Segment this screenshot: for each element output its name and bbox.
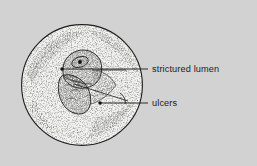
endoscopic-view-figure: strictured lumen ulcers bbox=[0, 0, 257, 166]
lumen-aperture bbox=[78, 60, 82, 64]
label-ulcers: ulcers bbox=[152, 98, 178, 108]
leader-dot-strictured-lumen bbox=[60, 67, 63, 70]
view-field-contents bbox=[22, 25, 142, 145]
leader-dot-ulcers bbox=[98, 101, 101, 104]
view-field bbox=[22, 25, 143, 146]
label-strictured-lumen: strictured lumen bbox=[152, 64, 219, 74]
illustration-canvas: strictured lumen ulcers bbox=[0, 0, 257, 166]
